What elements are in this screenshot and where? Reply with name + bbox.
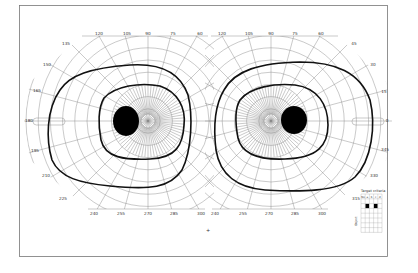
meridian-label: 150 bbox=[43, 62, 51, 67]
meridian-label: 225 bbox=[59, 196, 67, 201]
legend-filled-cell bbox=[366, 204, 370, 208]
meridian-label: 345 bbox=[381, 147, 389, 152]
meridian-label: 240 bbox=[90, 211, 98, 216]
meridian-line bbox=[148, 0, 182, 121]
meridian-label: 120 bbox=[95, 31, 103, 36]
meridian-label: 180 bbox=[25, 118, 33, 123]
right-horizontal-channel bbox=[352, 118, 384, 125]
left-blind-spot bbox=[113, 106, 139, 136]
legend-title: Target criteria bbox=[360, 189, 385, 193]
meridian-label: 330 bbox=[370, 173, 378, 178]
meridian-label: 105 bbox=[123, 31, 131, 36]
meridian-line bbox=[237, 0, 271, 121]
legend-filled-cell bbox=[374, 204, 378, 208]
legend-header: a bbox=[367, 196, 369, 199]
legend-header: d bbox=[379, 196, 381, 199]
right-blind-spot bbox=[281, 106, 307, 134]
meridian-label: 240 bbox=[211, 211, 219, 216]
meridian-label: 90 bbox=[145, 31, 151, 36]
meridian-label: 75 bbox=[170, 31, 176, 36]
meridian-label: 15 bbox=[381, 89, 387, 94]
meridian-label: 165 bbox=[33, 88, 41, 93]
meridian-label: 300 bbox=[318, 211, 326, 216]
legend-side-label: Object bbox=[354, 215, 358, 226]
meridian-label: 45 bbox=[351, 41, 357, 46]
meridian-label: 90 bbox=[268, 31, 274, 36]
meridian-label: 255 bbox=[239, 211, 247, 216]
meridian-line bbox=[114, 0, 148, 121]
meridian-label: 60 bbox=[197, 31, 203, 36]
meridian-label: 315 bbox=[352, 196, 360, 201]
legend-header: No bbox=[361, 196, 365, 199]
right-field-outline bbox=[211, 36, 338, 209]
meridian-line bbox=[271, 29, 363, 121]
meridian-line bbox=[271, 121, 305, 247]
meridian-line bbox=[56, 121, 148, 213]
meridian-label: 285 bbox=[291, 211, 299, 216]
meridian-line bbox=[114, 121, 148, 247]
meridian-line bbox=[271, 0, 305, 121]
meridian-label: 30 bbox=[370, 62, 376, 67]
meridian-line bbox=[271, 121, 363, 213]
meridian-label: 270 bbox=[144, 211, 152, 216]
meridian-label: 255 bbox=[117, 211, 125, 216]
meridian-label: 60 bbox=[318, 31, 324, 36]
legend-header: c bbox=[375, 196, 377, 199]
perimetry-chart: 1201059075601351501651801952102252402552… bbox=[0, 0, 418, 273]
meridian-label: 135 bbox=[62, 41, 70, 46]
meridian-label: 300 bbox=[197, 211, 205, 216]
legend-header: b bbox=[371, 196, 373, 199]
meridian-label: 195 bbox=[31, 148, 39, 153]
center-mark: + bbox=[206, 227, 210, 233]
meridian-label: 210 bbox=[42, 173, 50, 178]
chart-frame bbox=[20, 6, 388, 257]
meridian-label: 285 bbox=[170, 211, 178, 216]
meridian-label: 105 bbox=[245, 31, 253, 36]
left-inner-isopter bbox=[99, 85, 184, 160]
meridian-label: 0 bbox=[386, 118, 389, 123]
meridian-label: 120 bbox=[218, 31, 226, 36]
meridian-line bbox=[237, 121, 271, 247]
meridian-label: 75 bbox=[292, 31, 298, 36]
meridian-label: 270 bbox=[265, 211, 273, 216]
